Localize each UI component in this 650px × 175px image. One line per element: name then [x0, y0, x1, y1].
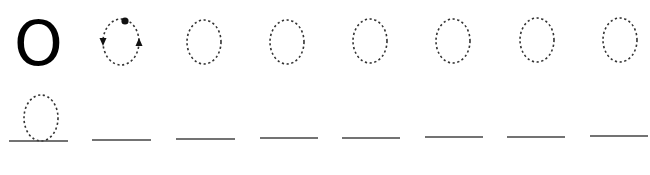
trace-oval-3	[353, 19, 387, 63]
trace-oval-6	[603, 18, 637, 62]
trace-oval-5	[520, 18, 554, 62]
start-dot-icon	[121, 17, 128, 24]
trace-oval-row2	[24, 95, 58, 141]
model-letter-o: O	[14, 9, 63, 79]
arrow-down-icon	[100, 38, 107, 46]
arrow-up-icon	[136, 38, 143, 46]
trace-oval-1	[187, 20, 221, 64]
tracing-canvas	[0, 0, 650, 175]
trace-oval-2	[270, 20, 304, 64]
demo-trace-oval	[103, 19, 139, 65]
handwriting-worksheet: O	[0, 0, 650, 175]
trace-oval-4	[436, 19, 470, 63]
